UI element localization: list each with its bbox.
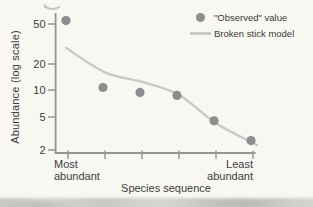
y-tick-label: 2 xyxy=(39,144,45,156)
observed-point xyxy=(246,136,255,145)
observed-point xyxy=(61,16,70,25)
x-right-line2: abundant xyxy=(150,170,253,182)
page-edge-shadow xyxy=(0,196,313,207)
legend-model-label: Broken stick model xyxy=(214,28,294,39)
legend-item-observed: "Observed" value xyxy=(189,10,294,25)
observed-point xyxy=(135,88,144,97)
legend: "Observed" value Broken stick model xyxy=(189,10,294,41)
model-line-icon xyxy=(189,32,211,34)
x-axis-right-endpoint-label: Least abundant xyxy=(150,158,253,182)
y-tick-label: 50 xyxy=(33,18,45,30)
observed-point xyxy=(172,91,181,100)
y-tick-label: 20 xyxy=(33,58,45,70)
x-left-line1: Most xyxy=(54,158,100,170)
x-right-line1: Least xyxy=(150,158,253,170)
observed-dot-icon xyxy=(189,13,211,22)
x-left-line2: abundant xyxy=(54,170,100,182)
observed-point xyxy=(98,83,107,92)
x-axis-left-endpoint-label: Most abundant xyxy=(54,158,100,182)
observed-point xyxy=(209,116,218,125)
legend-observed-label: "Observed" value xyxy=(214,12,287,23)
figure-broken-stick-chart: 50201052 Abundance (log scale) "Observed… xyxy=(0,0,313,207)
y-tick-label: 10 xyxy=(33,84,45,96)
legend-item-model: Broken stick model xyxy=(189,26,294,41)
y-axis-label: Abundance (log scale) xyxy=(9,30,21,144)
model-line xyxy=(66,48,257,145)
y-tick-label: 5 xyxy=(39,111,45,123)
x-axis-title: Species sequence xyxy=(90,182,242,194)
